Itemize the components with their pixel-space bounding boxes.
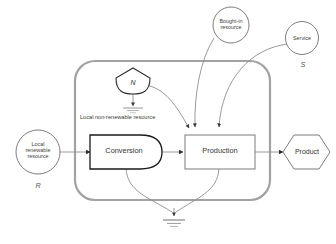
process-conversion[interactable] — [90, 135, 162, 169]
diagram-svg — [0, 0, 336, 244]
heat-sink-storage-icon — [123, 108, 143, 113]
process-production[interactable] — [185, 135, 255, 169]
flow-production-to-heatsink — [174, 168, 219, 216]
node-local-non-renewable-resource[interactable] — [116, 68, 150, 94]
node-bought-in-resource[interactable] — [213, 7, 249, 43]
flow-boughtin-to-production — [195, 38, 214, 127]
system-boundary — [75, 61, 270, 200]
node-service[interactable] — [286, 22, 319, 55]
flow-conversion-to-heatsink — [126, 168, 172, 212]
output-product[interactable] — [283, 135, 330, 169]
node-local-renewable-resource[interactable] — [16, 130, 60, 174]
diagram-canvas: Local renewable resource R Bought-in res… — [0, 0, 336, 244]
heat-sink-system-icon — [163, 220, 185, 226]
flow-storage-to-production — [145, 85, 189, 128]
flow-service-to-production — [219, 44, 288, 127]
